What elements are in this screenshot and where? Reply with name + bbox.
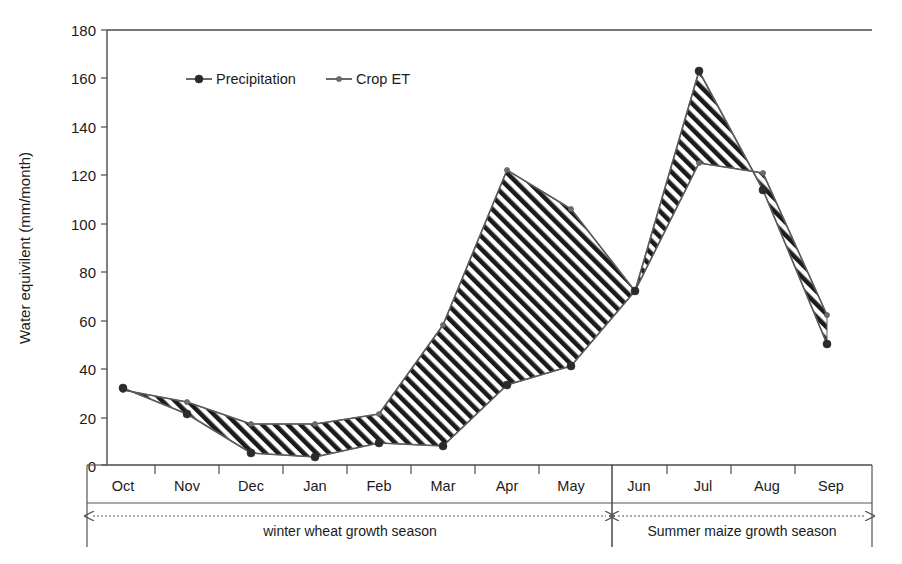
- y-tick-20: 20: [79, 410, 96, 427]
- x-tick-oct: Oct: [112, 478, 135, 494]
- chart-container: Water equivilent (mm/month) 180 160 140 …: [0, 0, 902, 564]
- y-tick-60: 60: [79, 313, 96, 330]
- x-tick-feb: Feb: [367, 478, 392, 494]
- x-tick-nov: Nov: [174, 478, 201, 494]
- x-tick-may: May: [557, 478, 585, 494]
- y-axis-title: Water equivilent (mm/month): [16, 152, 33, 344]
- y-tick-40: 40: [79, 361, 96, 378]
- y-axis-ticks: 180 160 140 120 100 80 60 40 20 0: [71, 22, 107, 475]
- x-tick-mar: Mar: [431, 478, 456, 494]
- chart-legend: Precipitation Crop ET: [186, 71, 410, 87]
- x-tick-apr: Apr: [496, 478, 519, 494]
- x-tick-jan: Jan: [303, 478, 326, 494]
- x-tick-sep: Sep: [818, 478, 844, 494]
- series-band-fill: [123, 71, 827, 457]
- season-span-winter-wheat: winter wheat growth season: [93, 516, 606, 539]
- x-tick-jun: Jun: [627, 478, 650, 494]
- legend-item-precipitation[interactable]: Precipitation: [186, 71, 296, 87]
- legend-item-crop-et[interactable]: Crop ET: [326, 71, 410, 87]
- season-label-winter-wheat: winter wheat growth season: [262, 523, 437, 539]
- season-label-summer-maize: Summer maize growth season: [647, 523, 836, 539]
- x-axis-month-band: Oct Nov Dec Jan Feb Mar Apr May Jun Jul …: [112, 465, 844, 494]
- x-tick-jul: Jul: [694, 478, 713, 494]
- y-tick-100: 100: [71, 216, 96, 233]
- legend-marker-icon: [336, 76, 341, 81]
- y-tick-180: 180: [71, 22, 96, 39]
- water-equivalent-line-chart: Water equivilent (mm/month) 180 160 140 …: [0, 0, 902, 564]
- legend-marker-icon: [195, 75, 203, 83]
- y-axis-title-text: Water equivilent (mm/month): [16, 152, 33, 344]
- y-tick-140: 140: [71, 119, 96, 136]
- y-tick-0: 0: [88, 458, 96, 475]
- legend-label-crop-et: Crop ET: [356, 71, 410, 87]
- season-span-summer-maize: Summer maize growth season: [618, 516, 866, 539]
- y-tick-120: 120: [71, 167, 96, 184]
- y-tick-80: 80: [79, 264, 96, 281]
- x-tick-aug: Aug: [754, 478, 780, 494]
- y-tick-160: 160: [71, 70, 96, 87]
- x-tick-dec: Dec: [238, 478, 264, 494]
- legend-label-precipitation: Precipitation: [216, 71, 296, 87]
